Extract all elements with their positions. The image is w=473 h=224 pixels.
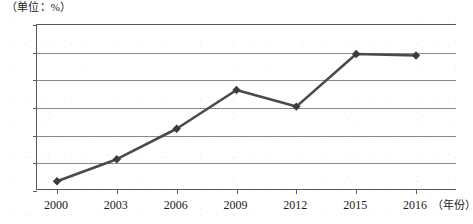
plot-area: [36, 24, 456, 190]
x-tick-label: 2015: [343, 198, 367, 212]
series-line-layer: [37, 25, 457, 191]
x-tick-label: 2003: [104, 198, 128, 212]
x-tick-label: 2016: [403, 198, 427, 212]
x-tick-label: 2012: [283, 198, 307, 212]
x-axis-title: （年份）: [432, 198, 473, 212]
x-tick-label: 2006: [164, 198, 188, 212]
data-point-marker: [53, 177, 61, 185]
x-tick-label: 2009: [224, 198, 248, 212]
unit-note-label: （单位：%）: [6, 1, 71, 14]
data-point-marker: [412, 51, 420, 59]
series-line: [57, 54, 416, 181]
x-tick-label: 2000: [44, 198, 68, 212]
y-tick-mark: [33, 191, 37, 192]
